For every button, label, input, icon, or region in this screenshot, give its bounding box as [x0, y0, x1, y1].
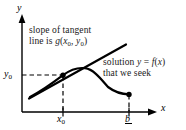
x-tick-label-subscript: 0: [61, 118, 65, 126]
y-axis-arrow-icon: [19, 14, 26, 23]
tangent-line-figure: y x y0 x0 b slope of tangent line is g(x…: [0, 0, 186, 130]
initial-point-marker: [60, 73, 65, 78]
slope-annotation-prefix: line is: [29, 36, 55, 46]
solution-annotation-equals: =: [141, 57, 151, 67]
x-tick-label-b: b: [125, 113, 132, 124]
y-axis-label: y: [17, 2, 21, 13]
x-axis-arrow-icon: [148, 109, 157, 116]
solution-annotation-line1: solution y = f(x): [103, 57, 165, 68]
solution-annotation-paren-close: ): [162, 57, 165, 67]
slope-annotation-paren-close: ): [84, 36, 87, 46]
x-tick-label-b-text: b: [125, 113, 130, 124]
x-tick-label-x0: x0: [57, 113, 65, 126]
y-tick-label-subscript: 0: [8, 73, 12, 81]
slope-annotation-line2: line is g(x0, y0): [29, 36, 91, 50]
x-axis-label: x: [161, 102, 165, 113]
slope-annotation-line1: slope of tangent: [29, 25, 91, 36]
solution-annotation-prefix: solution: [103, 57, 137, 67]
slope-annotation: slope of tangent line is g(x0, y0): [29, 25, 91, 49]
solution-annotation: solution y = f(x) that we seek: [103, 57, 165, 78]
solution-annotation-line2: that we seek: [103, 68, 165, 79]
endpoint-marker: [126, 92, 131, 97]
y-tick-label-y0: y0: [4, 68, 12, 81]
